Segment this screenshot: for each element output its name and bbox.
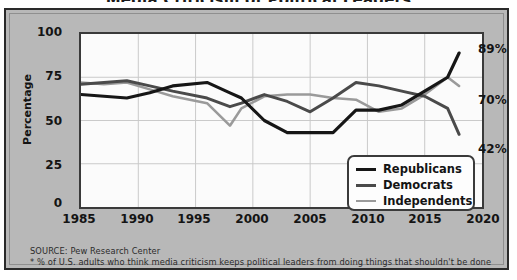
x-tick-1995: 1995 (172, 213, 216, 225)
page-title: Media Criticism of Political Leaders (0, 0, 517, 2)
legend-swatch-republicans (356, 168, 376, 171)
legend-swatch-democrats (356, 184, 376, 187)
chart-screenshot: Percentage 100 75 50 25 0 (0, 0, 517, 280)
series-group (81, 53, 459, 134)
legend-item-independents: Independents (349, 193, 473, 209)
legend-item-republicans: Republicans (349, 161, 473, 177)
x-tick-1990: 1990 (115, 213, 159, 225)
gridlines-horizontal (81, 77, 482, 164)
x-tick-2020: 2020 (461, 213, 505, 225)
x-tick-2005: 2005 (288, 213, 332, 225)
x-tick-2015: 2015 (403, 213, 447, 225)
figure-frame: Percentage 100 75 50 25 0 (4, 8, 509, 270)
y-tick-100: 100 (28, 26, 62, 38)
x-tick-2010: 2010 (346, 213, 390, 225)
legend-label-independents: Independents (383, 195, 472, 208)
source-line: SOURCE: Pew Research Center (30, 246, 500, 257)
end-label-independents: 70% (478, 94, 507, 106)
y-tick-0: 0 (28, 197, 62, 209)
chart-footnotes: SOURCE: Pew Research Center * % of U.S. … (30, 246, 500, 268)
x-tick-2000: 2000 (230, 213, 274, 225)
x-tick-1985: 1985 (57, 213, 101, 225)
legend-item-democrats: Democrats (349, 177, 473, 193)
footnote-line: * % of U.S. adults who think media criti… (30, 257, 500, 268)
end-label-democrats: 42% (478, 143, 507, 155)
legend-label-republicans: Republicans (383, 163, 462, 176)
legend-label-democrats: Democrats (383, 179, 453, 192)
y-tick-50: 50 (28, 115, 62, 127)
y-tick-25: 25 (28, 159, 62, 171)
legend-swatch-independents (356, 200, 376, 202)
y-tick-75: 75 (28, 70, 62, 82)
end-label-republicans: 89% (478, 43, 507, 55)
chart-legend: Republicans Democrats Independents (347, 155, 475, 211)
